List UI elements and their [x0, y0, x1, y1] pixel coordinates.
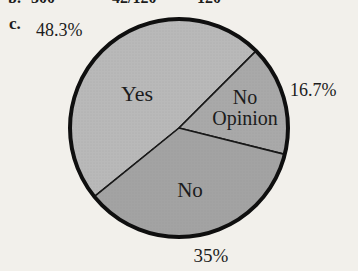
- slice-label-no-opinion: No Opinion: [212, 87, 278, 129]
- pct-label-yes: 48.3%: [36, 20, 83, 41]
- slice-label-no: No: [177, 178, 203, 203]
- slice-label-no-opinion-line2: Opinion: [212, 108, 278, 129]
- pct-label-no: 35%: [194, 245, 229, 267]
- textbook-scan-page: b. 500 42/120 120 c. 48.3% 16.7% 35% Yes…: [0, 0, 358, 271]
- slice-label-no-opinion-line1: No: [212, 87, 278, 108]
- slice-label-yes: Yes: [121, 81, 153, 107]
- pct-label-no-opinion: 16.7%: [290, 80, 337, 101]
